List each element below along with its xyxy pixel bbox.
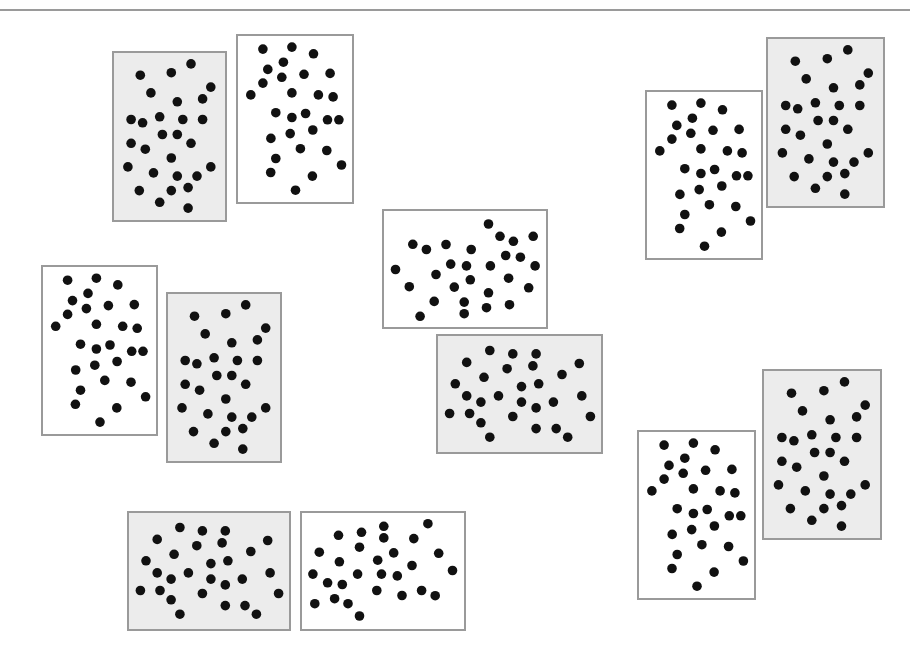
dot <box>508 349 518 359</box>
dot <box>328 92 338 102</box>
dot <box>263 536 273 546</box>
dot <box>221 427 231 437</box>
dot-field <box>384 211 546 327</box>
dot <box>253 356 263 366</box>
gray-dot-card <box>112 51 227 222</box>
dot <box>430 591 440 601</box>
dot <box>450 282 460 292</box>
dot <box>484 219 494 229</box>
dot <box>155 586 165 596</box>
dot <box>166 595 176 605</box>
dot <box>51 322 61 332</box>
dot <box>734 125 744 135</box>
dot <box>241 300 251 310</box>
dot <box>825 489 835 499</box>
dot <box>155 198 165 208</box>
white-dot-card <box>645 90 763 260</box>
dot <box>178 115 188 125</box>
dot <box>173 171 183 181</box>
dot <box>287 42 297 52</box>
dot <box>343 599 353 609</box>
dot <box>173 130 183 140</box>
dot <box>285 129 295 139</box>
dot <box>697 540 707 550</box>
dot <box>409 534 419 544</box>
dot <box>813 116 823 126</box>
dot <box>508 412 518 422</box>
dot <box>372 586 382 596</box>
dot <box>373 555 383 565</box>
dot <box>702 505 712 515</box>
dot <box>357 528 367 538</box>
dot <box>700 241 710 251</box>
dot <box>823 172 833 182</box>
dot <box>840 457 850 467</box>
dot <box>717 181 727 191</box>
dot <box>586 412 596 422</box>
dot <box>710 445 720 455</box>
dot <box>852 433 862 443</box>
dot <box>173 97 183 107</box>
dot <box>549 397 559 407</box>
dot <box>301 109 311 119</box>
dot <box>299 70 309 80</box>
dot <box>198 115 208 125</box>
dot <box>466 275 476 285</box>
dot <box>781 125 791 135</box>
dot <box>287 88 297 98</box>
dot <box>829 157 839 167</box>
dot <box>792 462 802 472</box>
dot <box>63 310 73 320</box>
dot <box>227 412 237 422</box>
dot <box>465 409 475 419</box>
dot-field <box>129 513 289 629</box>
dot <box>217 538 227 548</box>
dot <box>206 559 216 569</box>
dot <box>308 125 318 135</box>
dot <box>141 392 151 402</box>
dot <box>322 146 332 156</box>
dot <box>167 186 177 196</box>
dot <box>76 385 86 395</box>
dot <box>136 586 146 596</box>
dot <box>441 240 451 250</box>
dot <box>90 360 100 370</box>
dot <box>516 252 526 262</box>
dot <box>680 453 690 463</box>
dot <box>840 377 850 387</box>
dot <box>126 377 136 387</box>
dot <box>100 376 110 386</box>
white-dot-card <box>236 34 354 204</box>
dot <box>241 380 251 390</box>
dot <box>680 210 690 220</box>
dot <box>158 130 168 140</box>
dot <box>323 115 333 125</box>
dot <box>337 160 347 170</box>
dot <box>482 303 492 313</box>
dot <box>415 312 425 322</box>
dot <box>190 311 200 321</box>
dot <box>434 549 444 559</box>
dot <box>855 101 865 111</box>
dot <box>227 371 237 381</box>
dot <box>258 78 268 88</box>
dot <box>689 509 699 519</box>
gray-dot-card <box>436 334 603 454</box>
dot <box>715 486 725 496</box>
dot <box>680 164 690 174</box>
dot <box>206 574 216 584</box>
dot <box>233 356 243 366</box>
dot <box>659 440 669 450</box>
dot <box>837 501 847 511</box>
dot <box>246 547 256 557</box>
dot <box>149 168 159 178</box>
dot <box>864 68 874 78</box>
dot <box>689 484 699 494</box>
dot <box>221 580 231 590</box>
dot <box>252 609 262 619</box>
dot <box>76 339 86 349</box>
dot <box>494 391 504 401</box>
dot <box>138 347 148 357</box>
dot <box>789 172 799 182</box>
dot <box>118 322 128 332</box>
